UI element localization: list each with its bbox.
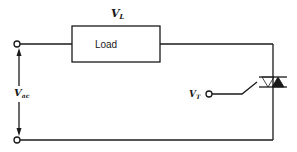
gate-terminal xyxy=(206,91,212,97)
vl-label: VL xyxy=(111,7,125,21)
vac-label: Vac xyxy=(14,87,30,99)
load-label: Load xyxy=(95,39,117,50)
arrow-down-icon xyxy=(17,128,22,136)
gate-wire xyxy=(212,82,257,94)
source-terminal-top xyxy=(14,41,20,47)
source-terminal-bottom xyxy=(14,137,20,143)
arrow-up-icon xyxy=(17,48,22,56)
circuit-diagram: VL Load Vac VT xyxy=(0,0,297,152)
vt-label: VT xyxy=(189,89,201,100)
